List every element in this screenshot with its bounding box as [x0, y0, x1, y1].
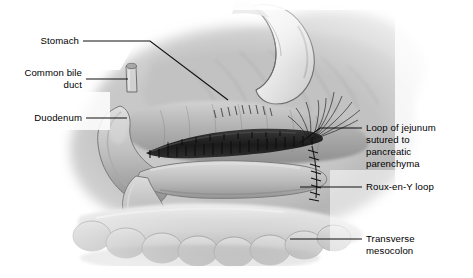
- label-roux-en-y: Roux-en-Y loop: [366, 181, 473, 193]
- label-duodenum: Duodenum: [0, 112, 82, 124]
- label-jejunum-line2: sutured to: [366, 134, 473, 146]
- label-transverse-mesocolon-line2: mesocolon: [366, 245, 466, 257]
- label-jejunum-line1: Loop of jejunum: [366, 122, 473, 134]
- label-common-bile-duct-line1: Common bile: [0, 67, 82, 79]
- label-common-bile-duct-line2: duct: [0, 79, 82, 91]
- label-transverse-mesocolon-line1: Transverse: [366, 233, 466, 245]
- label-stomach: Stomach: [0, 35, 79, 47]
- label-jejunum-line4: parenchyma: [366, 158, 473, 170]
- label-jejunum-line3: pancreatic: [366, 146, 473, 158]
- figure-canvas: Stomach Common bile duct Duodenum Loop o…: [0, 0, 473, 278]
